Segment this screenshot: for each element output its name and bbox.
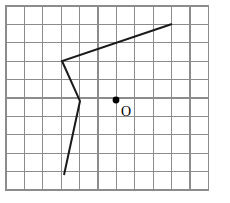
figure-svg: O (0, 0, 230, 203)
center-point-dot (113, 97, 120, 104)
grid-group (6, 6, 208, 190)
center-point-label: O (121, 104, 131, 119)
figure-canvas: O (0, 0, 230, 203)
